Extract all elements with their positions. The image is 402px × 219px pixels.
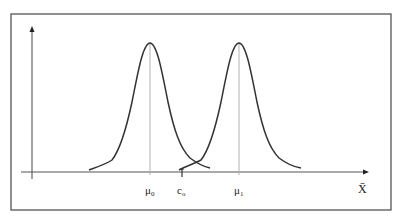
diagram: μ0 co μ1 X̄ [0,0,402,219]
h1-distribution-curve [179,43,301,170]
x-axis-arrow-icon [363,170,369,175]
c0-label: co [177,184,186,198]
mu0-label: μ0 [145,184,155,198]
mu1-label: μ1 [234,184,244,198]
y-axis-arrow-icon [30,26,35,32]
h0-distribution-curve [89,43,210,170]
frame-border [11,14,391,210]
x-axis-label: X̄ [358,182,367,196]
